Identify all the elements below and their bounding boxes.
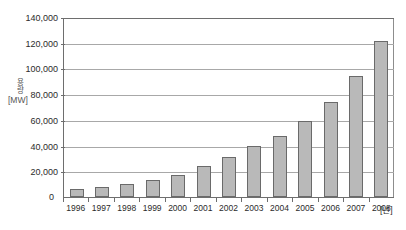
bar-1997[interactable] (95, 187, 109, 197)
x-tick-label-2005: 2005 (292, 203, 317, 213)
bar-slot-2006 (318, 18, 343, 197)
bar-1998[interactable] (120, 184, 134, 197)
x-tick-slot-2008 (369, 198, 394, 202)
bar-slot-2003 (242, 18, 267, 197)
y-tick-label-20000: 20,000 (0, 167, 58, 177)
bar-slot-2004 (267, 18, 292, 197)
x-tick-slot-2007 (343, 198, 368, 202)
bar-2006[interactable] (324, 102, 338, 197)
bar-slot-2002 (216, 18, 241, 197)
x-tick-slot-2002 (216, 198, 241, 202)
bar-2001[interactable] (197, 166, 211, 197)
x-tick-label-1997: 1997 (88, 203, 113, 213)
y-tick-label-140000: 140,000 (0, 13, 58, 23)
x-tick-mark-2005 (292, 198, 293, 202)
bar-2003[interactable] (247, 146, 261, 197)
y-tick-label-60000: 60,000 (0, 116, 58, 126)
y-tick-label-80000: 80,000 (0, 90, 58, 100)
bar-slot-1998 (115, 18, 140, 197)
bar-slot-2008 (369, 18, 394, 197)
x-tick-label-2001: 2001 (190, 203, 215, 213)
x-axis-tick-labels: 1996199719981999200020012002200320042005… (63, 203, 394, 213)
bar-slot-1999 (140, 18, 165, 197)
x-axis-unit-label: [년] (380, 203, 393, 215)
x-tick-slot-2003 (241, 198, 266, 202)
x-tick-label-2004: 2004 (267, 203, 292, 213)
x-tick-label-2003: 2003 (241, 203, 266, 213)
x-tick-slot-2006 (318, 198, 343, 202)
x-tick-slot-2004 (267, 198, 292, 202)
x-tick-slot-1998 (114, 198, 139, 202)
x-tick-mark-2003 (241, 198, 242, 202)
bar-slot-2000 (166, 18, 191, 197)
bar-2007[interactable] (349, 76, 363, 197)
x-tick-slot-1999 (139, 198, 164, 202)
plot-inner (64, 18, 394, 197)
x-tick-label-1999: 1999 (139, 203, 164, 213)
y-tick-label-120000: 120,000 (0, 39, 58, 49)
plot-area (63, 18, 394, 198)
x-axis-tick-marks (63, 198, 394, 202)
x-tick-mark-2008 (369, 198, 370, 202)
x-tick-mark-1999 (139, 198, 140, 202)
bar-2002[interactable] (222, 157, 236, 197)
y-tick-label-0: 0 (49, 192, 54, 202)
x-tick-label-2006: 2006 (318, 203, 343, 213)
bar-slot-1997 (89, 18, 114, 197)
x-tick-mark-2006 (318, 198, 319, 202)
x-tick-mark-1996 (63, 198, 64, 202)
y-tick-label-100000: 100,000 (0, 64, 58, 74)
bar-2005[interactable] (298, 121, 312, 197)
x-tick-slot-1997 (88, 198, 113, 202)
x-tick-mark-2001 (190, 198, 191, 202)
bar-chart: 용량 [MW] 0 20,00040,00060,00080,000100,00… (0, 0, 406, 230)
bar-1999[interactable] (146, 180, 160, 197)
x-tick-label-2000: 2000 (165, 203, 190, 213)
x-tick-mark-1997 (88, 198, 89, 202)
x-tick-label-2007: 2007 (343, 203, 368, 213)
x-tick-mark-1998 (114, 198, 115, 202)
x-tick-mark-2002 (216, 198, 217, 202)
x-tick-mark-2007 (343, 198, 344, 202)
bar-2000[interactable] (171, 175, 185, 197)
bar-slot-2001 (191, 18, 216, 197)
y-tick-label-40000: 40,000 (0, 142, 58, 152)
bars-layer (64, 18, 394, 197)
x-tick-label-1996: 1996 (63, 203, 88, 213)
x-tick-slot-1996 (63, 198, 88, 202)
x-tick-mark-2004 (267, 198, 268, 202)
bar-slot-1996 (64, 18, 89, 197)
x-tick-slot-2000 (165, 198, 190, 202)
bar-1996[interactable] (70, 189, 84, 197)
x-tick-label-1998: 1998 (114, 203, 139, 213)
x-tick-slot-2005 (292, 198, 317, 202)
bar-slot-2007 (343, 18, 368, 197)
x-tick-label-2002: 2002 (216, 203, 241, 213)
bar-slot-2005 (293, 18, 318, 197)
bar-2004[interactable] (273, 136, 287, 197)
x-tick-mark-2000 (165, 198, 166, 202)
bar-2008[interactable] (374, 41, 388, 197)
x-tick-slot-2001 (190, 198, 215, 202)
